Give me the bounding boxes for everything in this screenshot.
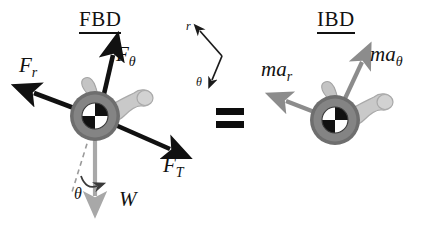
inertia-label-mar-base: ma [261,57,287,81]
ibd-title: IBD [317,9,355,34]
angle-label-theta: θ [74,186,82,202]
force-label-Ftheta-base: F [116,42,129,66]
force-label-Fr-sub: r [32,65,37,80]
inertia-label-matheta-sub: θ [396,54,403,69]
force-label-FT-sub: T [176,165,184,180]
inertia-label-matheta-base: ma [370,42,396,66]
equals-bar-top [216,108,244,115]
inertia-label-mar: mar [261,59,292,84]
force-label-Ftheta-sub: θ [129,54,136,69]
inertia-label-mar-sub: r [287,69,292,84]
force-label-FT-base: F [163,153,176,177]
axis-label-r: r [186,20,191,32]
inertia-label-matheta: maθ [370,44,403,69]
equals-sign [216,108,244,128]
force-label-FT: FT [163,155,184,180]
force-label-W: W [119,189,137,210]
axis-label-theta: θ [196,76,202,88]
equals-bar-bottom [216,121,244,128]
fbd-ibd-figure: FBD IBD Fr Fθ FT W θ r θ mar maθ [0,0,431,232]
coordinate-indicator [200,31,222,80]
force-label-Ftheta: Fθ [116,44,136,69]
force-label-Fr-base: F [19,53,32,77]
fbd-title: FBD [79,9,121,34]
force-label-Fr: Fr [19,55,37,80]
